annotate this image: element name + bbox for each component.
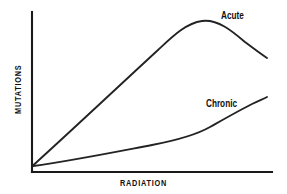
radiation-mutations-chart: [0, 0, 287, 194]
y-axis-label: MUTATIONS: [14, 46, 23, 132]
x-axis-label: RADIATION: [20, 179, 267, 188]
chronic-series-label: Chronic: [206, 99, 237, 109]
acute-series-label: Acute: [221, 11, 244, 21]
